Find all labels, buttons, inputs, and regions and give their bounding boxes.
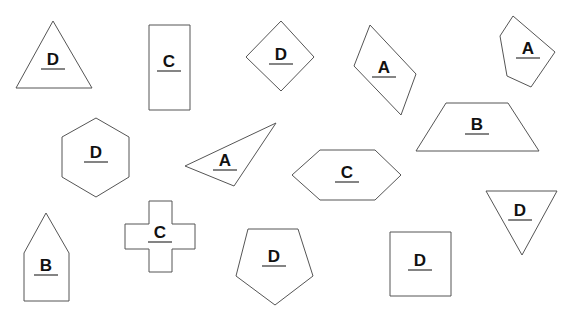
shape-label: B [40,256,52,275]
shape-rhombus: D [246,21,314,91]
shape-rectangle: C [149,25,190,110]
shape-label: D [268,247,280,266]
shape-pentagon: A [500,16,555,87]
shape-hexagon: C [292,150,401,200]
shape-label: D [90,143,102,162]
shape-label: A [378,58,390,77]
shape-inverted-triangle: D [486,191,557,255]
shape-label: C [163,52,175,71]
shape-pentagon-house: B [24,213,69,301]
shape-label: B [471,115,483,134]
pentagon-outline [236,229,313,305]
shape-label: C [154,223,166,242]
shape-parallelogram: A [354,25,416,115]
shape-hexagon: D [62,118,129,197]
shape-label: A [219,151,231,170]
shape-label: D [414,251,426,270]
shape-label: D [514,201,526,220]
shape-square: D [390,232,451,296]
shape-trapezoid: B [416,103,539,151]
shape-label: C [341,163,353,182]
shape-triangle: A [185,123,276,186]
shape-triangle: D [16,21,92,88]
shape-label: D [47,50,59,69]
shapes-canvas: DCDAABDACDBCDD [0,0,569,316]
shape-label: A [522,39,534,58]
shape-label: D [275,45,287,64]
shape-pentagon: D [236,229,313,305]
shape-cross: C [125,201,195,272]
